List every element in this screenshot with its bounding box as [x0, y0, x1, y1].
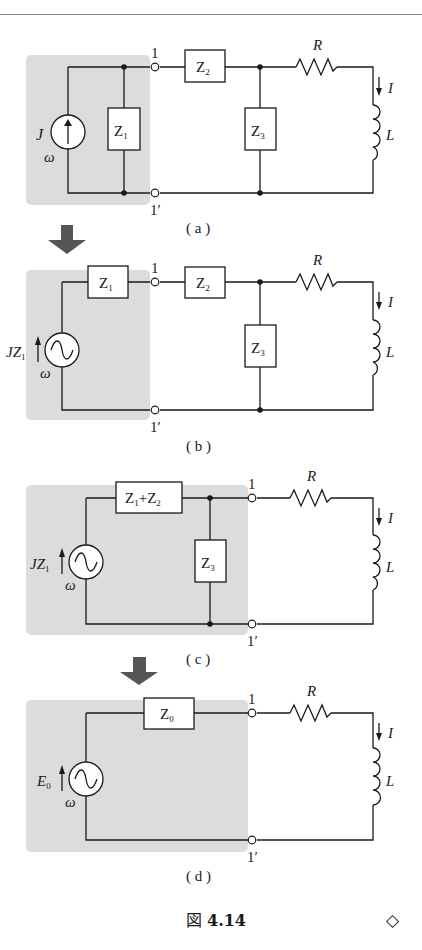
svg-text:L: L	[385, 344, 394, 360]
terminal-1prime	[248, 836, 256, 844]
svg-text:L: L	[385, 773, 394, 789]
ac-voltage-source-icon	[45, 333, 79, 367]
panel-a: J ω Z1 Z2 Z3 R L I 1 1′ ( a )	[26, 37, 394, 237]
end-mark-icon: ◇	[386, 911, 400, 930]
svg-text:1′: 1′	[150, 419, 161, 435]
terminal-1	[151, 63, 159, 71]
terminal-1	[248, 494, 256, 502]
svg-text:I: I	[387, 510, 394, 526]
resistor-icon	[290, 490, 331, 506]
svg-text:ω: ω	[65, 794, 76, 810]
panel-a-label: ( a )	[186, 220, 210, 237]
svg-text:R: R	[306, 468, 316, 484]
impedance-z3	[195, 540, 226, 582]
svg-text:1: 1	[151, 45, 159, 61]
current-arrow-icon	[376, 733, 382, 741]
resistor-label: R	[312, 37, 322, 53]
panel-d-label: ( d )	[186, 868, 211, 885]
current-arrow-icon	[376, 302, 382, 310]
inductor-icon	[373, 748, 381, 805]
inductor-icon	[373, 320, 380, 375]
figure-caption: 図4.14	[186, 911, 246, 930]
svg-text:ω: ω	[65, 577, 76, 593]
resistor-icon	[296, 274, 337, 290]
down-arrow-icon	[120, 657, 158, 685]
svg-text:I: I	[387, 725, 394, 741]
circuit-figure: J ω Z1 Z2 Z3 R L I 1 1′ ( a )	[0, 0, 422, 950]
impedance-z3	[245, 325, 276, 367]
omega-label: ω	[44, 149, 55, 165]
terminal-1prime	[248, 620, 256, 628]
svg-text:1′: 1′	[150, 202, 161, 218]
svg-text:R: R	[306, 683, 316, 699]
svg-text:1: 1	[248, 691, 256, 707]
panel-c: JZ1 ω Z1+Z2 Z3 R L I 1 1′ ( c )	[26, 468, 394, 668]
svg-text:1: 1	[248, 476, 256, 492]
svg-text:1: 1	[151, 260, 159, 276]
svg-text:Z1+Z2: Z1+Z2	[125, 490, 161, 508]
inductor-label: L	[385, 127, 394, 143]
svg-text:R: R	[312, 252, 322, 268]
svg-text:1′: 1′	[247, 633, 258, 649]
terminal-1	[151, 278, 159, 286]
current-source-icon	[51, 115, 85, 149]
down-arrow-icon	[48, 225, 86, 254]
resistor-icon	[296, 59, 337, 75]
terminal-1	[248, 709, 256, 717]
resistor-icon	[290, 705, 331, 721]
current-label: I	[387, 80, 394, 96]
panel-c-label: ( c )	[186, 651, 210, 668]
current-arrow-icon	[376, 88, 382, 96]
inductor-icon	[373, 105, 380, 160]
svg-text:ω: ω	[40, 365, 51, 381]
impedance-z3	[245, 108, 276, 150]
source-label-J: J	[36, 126, 44, 143]
current-arrow-icon	[376, 518, 382, 526]
shaded-region	[26, 700, 248, 852]
svg-text:1′: 1′	[247, 849, 258, 865]
ac-voltage-source-icon	[69, 762, 103, 796]
ac-voltage-source-icon	[69, 545, 103, 579]
terminal-1prime	[151, 189, 159, 197]
panel-b: JZ1 ω Z1 Z2 Z3 R L I 1 1′ ( b )	[6, 252, 394, 455]
panel-b-label: ( b )	[186, 438, 211, 455]
svg-text:L: L	[385, 559, 394, 575]
svg-text:I: I	[387, 294, 394, 310]
terminal-1prime	[151, 406, 159, 414]
panel-d: E0 ω Z0 R L I 1 1′ ( d )	[26, 683, 394, 885]
inductor-icon	[373, 535, 380, 590]
impedance-z1	[108, 108, 140, 150]
svg-text:JZ1: JZ1	[6, 344, 26, 362]
